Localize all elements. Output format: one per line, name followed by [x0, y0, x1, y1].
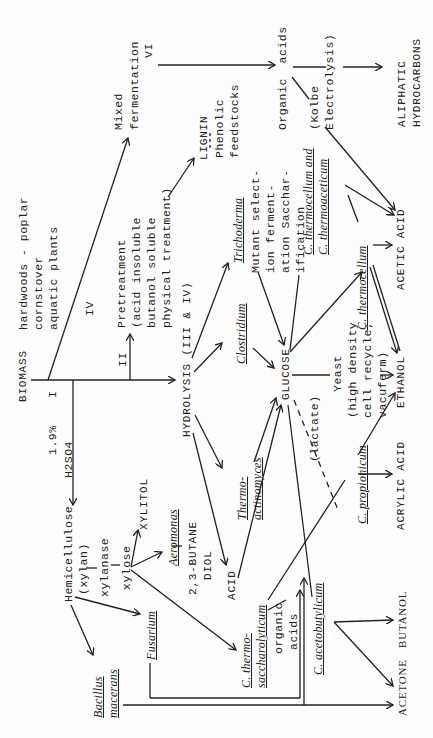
- enzyme-xylanase: xylanase: [98, 538, 111, 597]
- node-acrylic-acid: ACRYLIC ACID: [395, 441, 408, 530]
- organism-c-thermocellum: C. thermocellum: [356, 246, 369, 331]
- node-biomass: BIOMASS: [17, 350, 30, 402]
- pretreatment-line-1: Pretreatment: [115, 239, 128, 328]
- node-glucose: GLUCOSE: [280, 348, 293, 400]
- organism-thermoactinomyces-line-1: Thermo-: [236, 477, 249, 520]
- kolbe-line-2: Electrolysis): [323, 34, 336, 130]
- pretreatment-line-4: physical treatment): [160, 187, 173, 328]
- biomass-source-1: hardwoods - poplar: [17, 197, 30, 330]
- node-aliphatic-line-1: ALIPHATIC: [396, 60, 409, 127]
- route-VI-label: VI: [142, 43, 155, 58]
- yeast-line-1: Yeast: [331, 355, 344, 392]
- yeast-line-4: vacuferm): [376, 351, 389, 418]
- node-acetone: ACETONE: [396, 659, 409, 716]
- node-xylose: xylose: [120, 546, 133, 590]
- organism-c-thermocellum-and: C. thermocellum and: [302, 148, 315, 255]
- organism-c-thermo-line-1: C. thermo-: [240, 633, 253, 688]
- organism-c-thermo-line-2: saccharolyticum: [255, 605, 268, 688]
- route-IV-label: IV: [83, 301, 96, 316]
- pretreatment-line-2: (acid insoluble: [130, 217, 143, 328]
- mixed-fermentation-line-2: fermentation: [128, 41, 141, 130]
- mutant-line-1: Mutant select-: [249, 169, 262, 273]
- organism-c-propionicum: C. propionicum: [356, 445, 369, 524]
- phenolic-line-2: feedstocks: [228, 84, 241, 158]
- node-butanediol-line-2: DIOL: [202, 550, 215, 580]
- biomass-source-3: aquatic plants: [47, 226, 60, 330]
- organism-fusarium: Fusarium: [145, 611, 158, 660]
- organism-c-thermoaceticum: C. thermoaceticum: [317, 159, 330, 255]
- organic-acids-line-2: acids: [287, 613, 300, 650]
- organic-acids-line-1: organic: [272, 602, 285, 654]
- node-butanol: BUTANOL: [396, 591, 409, 648]
- organism-aeromonas: Aeromonas: [167, 509, 180, 566]
- organism-bacillus: Bacillus: [92, 676, 105, 718]
- node-organic-acids: Organic acids: [276, 26, 289, 130]
- acid-concentration-label: 1.9%: [46, 425, 59, 455]
- node-acetic-acid: ACETIC ACID: [395, 209, 408, 290]
- biomass-conversion-diagram: BIOMASS hardwoods - poplar cornstover aq…: [0, 0, 433, 738]
- pretreatment-line-3: butanol soluble: [145, 217, 158, 328]
- yeast-line-3: cell recycle;: [361, 322, 374, 418]
- kolbe-line-1: (Kolbe: [308, 86, 321, 130]
- organism-c-acetobutylicum: C. acetobutylicum: [312, 583, 325, 675]
- yeast-line-2: (high density: [346, 322, 359, 418]
- organism-trichoderma: Trichoderma: [232, 198, 245, 263]
- node-ethanol: ETHANOL: [395, 356, 408, 408]
- route-I-label: I: [46, 391, 59, 398]
- node-acid: ACID: [226, 570, 239, 600]
- node-butanediol-line-1: 2,3-BUTANE: [187, 521, 200, 595]
- mutant-line-2: ion ferment-: [264, 184, 277, 273]
- organism-clostridium: Clostridium: [235, 303, 248, 364]
- organism-macerans: macerans: [107, 669, 120, 718]
- acid-formula-label: H2SO4: [62, 441, 75, 478]
- node-xylitol: XYLITOL: [138, 478, 151, 530]
- hemicellulose-line-2: (xylan): [77, 543, 90, 595]
- node-hydrolysis: HYDROLYSIS (III & IV): [181, 282, 194, 437]
- node-lignin: LIGNIN: [198, 116, 211, 160]
- mixed-fermentation-line-1: Mixed: [112, 93, 125, 130]
- biomass-source-2: cornstover: [32, 256, 45, 330]
- mutant-line-3: ation Sacchar-: [279, 169, 292, 273]
- organism-thermoactinomyces-line-2: actinomyces: [251, 457, 264, 520]
- node-aliphatic-line-2: HYDROCARBONS: [411, 38, 424, 127]
- hemicellulose-line-1: Hemicellulose: [62, 506, 75, 602]
- route-II-label: II: [116, 352, 129, 367]
- lactate-label: (lactate): [308, 395, 321, 462]
- phenolic-line-1: Phenolic: [213, 99, 226, 158]
